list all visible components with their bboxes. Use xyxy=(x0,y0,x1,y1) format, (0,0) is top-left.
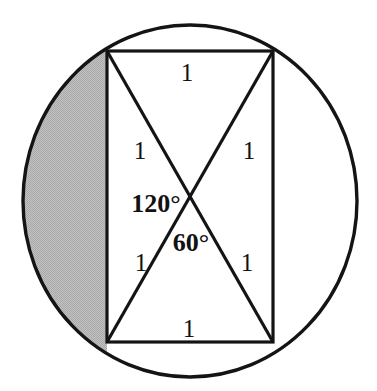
label-angle-acute: 60° xyxy=(173,230,209,256)
label-upper-left-half-diagonal: 1 xyxy=(134,138,147,163)
label-lower-right-half-diagonal: 1 xyxy=(241,250,254,275)
geometry-figure: 1 1 1 120° 60° 1 1 1 xyxy=(0,0,377,391)
label-top-side: 1 xyxy=(181,60,194,85)
label-bottom-side: 1 xyxy=(183,316,196,341)
label-angle-obtuse: 120° xyxy=(131,191,180,217)
label-lower-left-half-diagonal: 1 xyxy=(135,250,148,275)
label-upper-right-half-diagonal: 1 xyxy=(243,138,256,163)
